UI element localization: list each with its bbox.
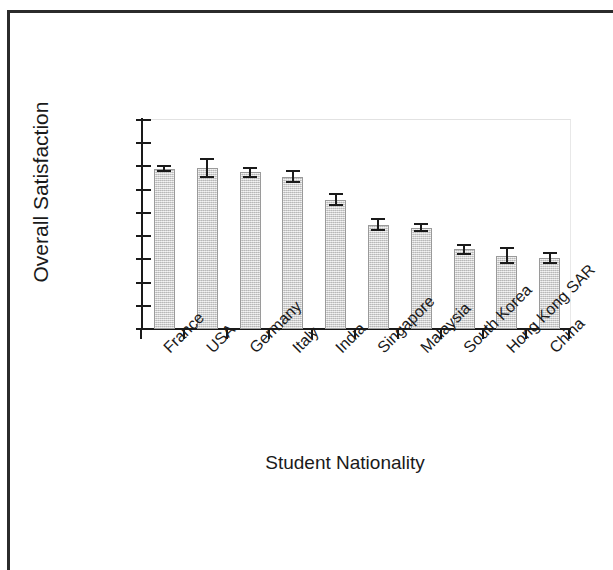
y-tick-mark: [136, 328, 151, 330]
bar: [240, 172, 261, 329]
y-tick-mark: [136, 189, 151, 191]
y-tick-mark: [136, 212, 151, 214]
error-bar-cap-top: [329, 193, 343, 195]
x-tick-mark: [397, 328, 399, 339]
error-bar: [240, 167, 260, 178]
bar: [325, 200, 346, 329]
x-tick-mark: [140, 328, 142, 339]
x-tick-mark: [268, 328, 270, 339]
x-tick-mark: [440, 328, 442, 339]
x-tick-mark: [183, 328, 185, 339]
error-bar-cap-top: [543, 252, 557, 254]
error-bar: [411, 223, 431, 232]
error-bar-cap-bottom: [414, 230, 428, 232]
y-tick-mark: [136, 305, 151, 307]
error-bar-cap-top: [157, 165, 171, 167]
error-bar-cap-bottom: [500, 262, 514, 264]
error-bar-cap-bottom: [543, 262, 557, 264]
x-tick-mark: [311, 328, 313, 339]
x-tick-mark: [525, 328, 527, 339]
error-bar-cap-top: [414, 223, 428, 225]
error-bar-cap-top: [243, 167, 257, 169]
error-bar: [197, 158, 217, 178]
bar: [154, 169, 175, 329]
error-bar: [540, 252, 560, 264]
y-axis-title: Overall Satisfaction: [29, 82, 53, 302]
error-bar: [154, 165, 174, 172]
error-bar-cap-bottom: [243, 176, 257, 178]
error-bar-cap-top: [457, 244, 471, 246]
error-bar: [283, 170, 303, 183]
error-bar-cap-top: [200, 158, 214, 160]
y-tick-mark: [136, 282, 151, 284]
x-tick-mark: [226, 328, 228, 339]
error-bar-cap-bottom: [200, 176, 214, 178]
error-bar-cap-top: [371, 218, 385, 220]
error-bar-cap-top: [286, 170, 300, 172]
y-tick-mark: [136, 258, 151, 260]
y-tick-mark: [136, 142, 151, 144]
x-tick-mark: [568, 328, 570, 339]
error-bar-cap-bottom: [329, 204, 343, 206]
y-tick-mark: [136, 165, 151, 167]
error-bar-cap-bottom: [157, 170, 171, 172]
error-bar-cap-bottom: [286, 181, 300, 183]
bar: [368, 225, 389, 330]
x-axis-title: Student Nationality: [120, 452, 570, 474]
x-tick-mark: [482, 328, 484, 339]
error-bar-cap-bottom: [457, 253, 471, 255]
error-bar-whisker: [206, 158, 208, 178]
error-bar: [326, 193, 346, 206]
error-bar: [368, 218, 388, 231]
error-bar-cap-bottom: [371, 229, 385, 231]
y-tick-mark: [136, 235, 151, 237]
error-bar: [497, 247, 517, 264]
bar: [197, 168, 218, 329]
y-tick-mark: [136, 119, 151, 121]
error-bar: [454, 244, 474, 255]
x-tick-mark: [354, 328, 356, 339]
error-bar-cap-top: [500, 247, 514, 249]
